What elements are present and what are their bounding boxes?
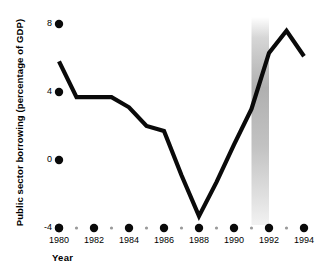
x-axis-minor-tick-dot xyxy=(250,226,253,229)
x-axis-minor-tick-dot xyxy=(110,226,113,229)
x-axis-major-tick-dot xyxy=(90,224,98,232)
x-axis-tick-label: 1980 xyxy=(42,236,76,245)
x-axis-minor-tick-dot xyxy=(180,226,183,229)
x-axis-major-tick-dot xyxy=(300,224,308,232)
x-axis-minor-tick-dot xyxy=(75,226,78,229)
x-axis-title: Year xyxy=(52,252,73,263)
y-axis-tick-dot xyxy=(55,224,63,232)
x-axis-minor-tick-dot xyxy=(285,226,288,229)
x-axis-tick-label: 1992 xyxy=(252,236,286,245)
y-axis-tick-dot xyxy=(55,156,63,164)
x-axis-tick-label: 1982 xyxy=(77,236,111,245)
x-axis-major-tick-dot xyxy=(265,224,273,232)
x-axis-tick-label: 1990 xyxy=(217,236,251,245)
x-axis-tick-label: 1986 xyxy=(147,236,181,245)
y-axis-title: Public sector borrowing (percentage of G… xyxy=(14,13,25,233)
y-axis-tick-label: 0 xyxy=(36,155,52,164)
x-axis-major-tick-dot xyxy=(160,224,168,232)
y-axis-tick-marks xyxy=(55,20,63,232)
y-axis-tick-dot xyxy=(55,88,63,96)
x-axis-tick-label: 1994 xyxy=(287,236,321,245)
x-axis-major-tick-dot xyxy=(195,224,203,232)
x-axis-minor-tick-dot xyxy=(215,226,218,229)
y-axis-tick-label: 4 xyxy=(36,87,52,96)
y-axis-tick-label: -4 xyxy=(36,223,52,232)
x-axis-minor-tick-dot xyxy=(145,226,148,229)
x-axis-minor-tick-marks xyxy=(75,226,288,229)
chart-container: Public sector borrowing (percentage of G… xyxy=(0,0,324,275)
x-axis-major-tick-dot xyxy=(125,224,133,232)
recession-shaded-band xyxy=(252,17,270,225)
y-axis-tick-dot xyxy=(55,20,63,28)
x-axis-major-tick-dot xyxy=(230,224,238,232)
chart-plot-area xyxy=(0,0,324,275)
x-axis-tick-label: 1988 xyxy=(182,236,216,245)
x-axis-tick-label: 1984 xyxy=(112,236,146,245)
y-axis-tick-label: 8 xyxy=(36,19,52,28)
